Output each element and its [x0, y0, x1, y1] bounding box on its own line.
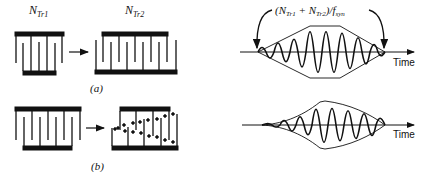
waveform-top: (NTr1 + NTr2)/fsyn Time: [240, 4, 415, 78]
transducer-ntr2: [95, 32, 177, 74]
time-label: Time: [393, 57, 415, 68]
transducer-uniform: [15, 107, 81, 150]
transducer-apodized: [112, 107, 178, 150]
duration-annotation: (NTr1 + NTr2)/fsyn: [275, 4, 345, 18]
transducer-ntr1: [15, 32, 64, 75]
panel-a: NTr1 NTr2: [15, 3, 177, 95]
curved-arrow-right-icon: [369, 10, 384, 48]
panel-b-caption: (b): [91, 160, 104, 172]
panel-a-caption: (a): [90, 82, 103, 95]
time-label: Time: [393, 129, 415, 140]
label-ntr1: NTr1: [28, 3, 48, 19]
label-ntr2: NTr2: [124, 3, 144, 19]
panel-b: (b): [15, 107, 178, 172]
waveform-bottom: Time: [242, 101, 415, 149]
curved-arrow-left-icon: [257, 10, 272, 48]
saw-transducer-diagram: NTr1 NTr2: [0, 0, 427, 172]
